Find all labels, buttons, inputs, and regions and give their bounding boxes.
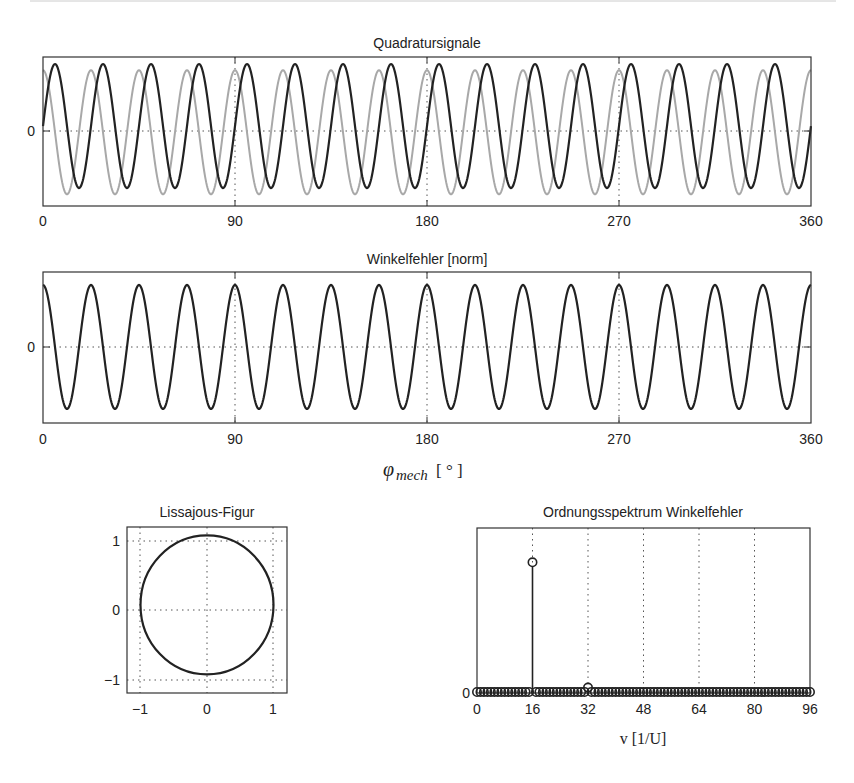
spectrum-xtick-32: 32 [580,701,596,717]
angle-error-ytick-0: 0 [27,339,35,355]
spectrum-xtick-48: 48 [636,701,652,717]
order-spectrum-plot: Ordnungsspektrum Winkelfehler 0 0 16 32 … [462,504,818,747]
spectrum-ytick-0: 0 [462,685,470,701]
lissajous-plot: Lissajous-Figur 1 0 −1 −1 0 1 [104,504,287,717]
angle-error-xlabel: φ mech [ ° ] [383,458,463,483]
spectrum-xlabel: v [1/U] [620,730,667,747]
quadrature-xtick-90: 90 [227,213,243,229]
lissajous-xtick-0: 0 [203,701,211,717]
spectrum-xtick-64: 64 [691,701,707,717]
quadrature-xtick-360: 360 [799,213,823,229]
sin-track-curve [43,64,811,188]
quadrature-xtick-270: 270 [607,213,631,229]
figure: Quadratursignale 0 0 90 180 270 360 Wink… [0,0,854,783]
quadrature-ytick-0: 0 [27,123,35,139]
angle-error-xtick-180: 180 [415,431,439,447]
lissajous-xtick-1: 1 [269,701,277,717]
spectrum-xtick-0: 0 [473,701,481,717]
angle-error-xtick-0: 0 [39,431,47,447]
spectrum-xtick-16: 16 [525,701,541,717]
xlabel-phi: φ [383,458,394,481]
lissajous-title: Lissajous-Figur [160,504,255,520]
quadrature-xtick-180: 180 [415,213,439,229]
lissajous-xtick-m1: −1 [132,701,148,717]
xlabel-unit: [ ° ] [436,461,463,480]
quadrature-title: Quadratursignale [373,35,481,51]
lissajous-grid [127,527,287,693]
spectrum-grid [533,528,755,693]
angle-error-plot: Winkelfehler [norm] 0 0 90 180 270 360 φ… [27,251,823,483]
xlabel-subscript: mech [396,467,428,483]
spectrum-xtick-80: 80 [747,701,763,717]
spectrum-title: Ordnungsspektrum Winkelfehler [543,504,743,520]
quadrature-plot: Quadratursignale 0 0 90 180 270 360 [27,35,823,229]
spectrum-xtick-96: 96 [802,701,818,717]
angle-error-xtick-360: 360 [799,431,823,447]
angle-error-xtick-270: 270 [607,431,631,447]
angle-error-xtick-90: 90 [227,431,243,447]
lissajous-ytick-0: 0 [112,602,120,618]
angle-error-curve [43,285,811,409]
lissajous-ytick-1: 1 [112,533,120,549]
angle-error-title: Winkelfehler [norm] [367,251,488,267]
lissajous-ytick-m1: −1 [104,672,120,688]
quadrature-xtick-0: 0 [39,213,47,229]
